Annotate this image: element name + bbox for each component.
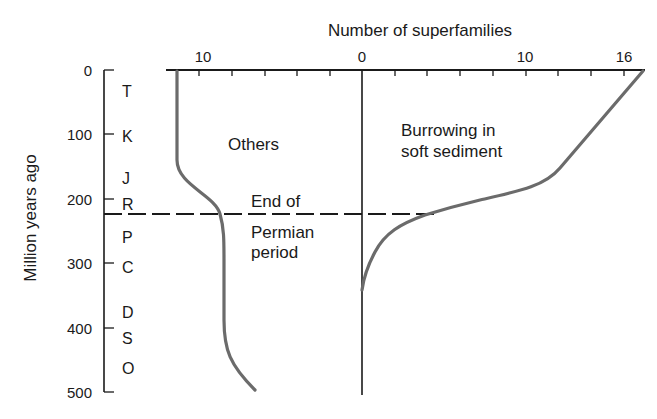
period-label-p: P <box>122 229 133 246</box>
period-label-s: S <box>122 330 133 347</box>
period-labels: T K J R P C D S O <box>122 83 134 377</box>
others-curve <box>177 71 255 390</box>
superfamilies-chart: Number of superfamilies 10 0 10 16 0 100… <box>0 0 657 419</box>
x-tick-label-16: 16 <box>616 48 633 65</box>
period-label-d: D <box>122 304 134 321</box>
x-tick-label-right-10: 10 <box>517 48 534 65</box>
end-permian-label-line3: period <box>251 243 298 262</box>
period-label-o: O <box>122 360 134 377</box>
x-axis-title: Number of superfamilies <box>328 21 512 40</box>
y-tick-label-200: 200 <box>67 191 92 208</box>
period-label-j: J <box>122 170 130 187</box>
burrowing-label-line1: Burrowing in <box>401 121 496 140</box>
y-tick-label-400: 400 <box>67 320 92 337</box>
y-tick-label-300: 300 <box>67 255 92 272</box>
others-label: Others <box>228 135 279 154</box>
y-axis-ticks <box>104 70 114 392</box>
end-permian-label-line1: End of <box>251 192 300 211</box>
y-axis-title: Million years ago <box>21 154 40 282</box>
period-label-c: C <box>122 259 134 276</box>
period-label-r: R <box>122 196 134 213</box>
burrowing-label-line2: soft sediment <box>401 142 502 161</box>
x-tick-label-left-10: 10 <box>195 48 212 65</box>
x-tick-label-0: 0 <box>358 48 366 65</box>
y-tick-label-500: 500 <box>67 384 92 401</box>
y-tick-label-0: 0 <box>84 62 92 79</box>
burrowing-curve <box>362 71 643 290</box>
y-tick-label-100: 100 <box>67 126 92 143</box>
period-label-t: T <box>122 83 132 100</box>
end-permian-label-line2: Permian <box>251 223 314 242</box>
period-label-k: K <box>122 128 133 145</box>
